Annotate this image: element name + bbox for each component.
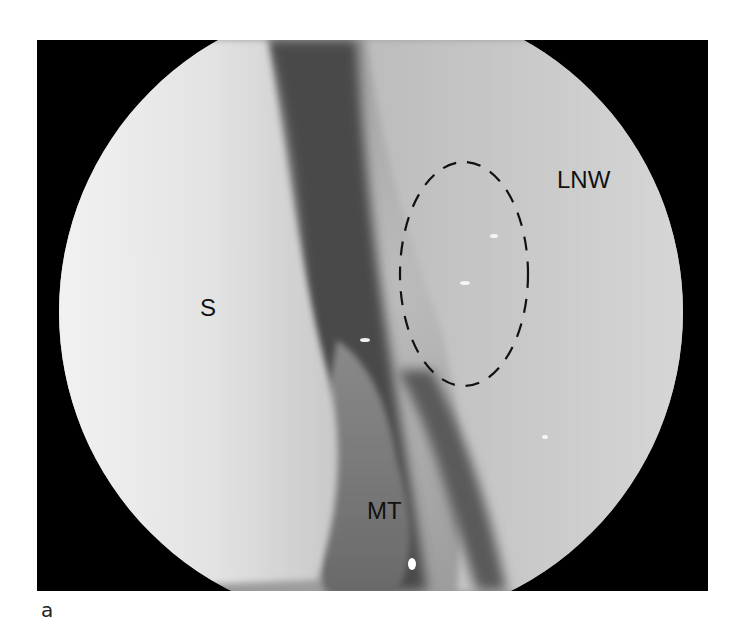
label-lateral-nasal-wall: LNW	[557, 168, 610, 192]
endoscopic-image: S LNW MT	[37, 40, 708, 591]
label-middle-turbinate: MT	[367, 499, 402, 523]
label-septum: S	[200, 296, 216, 320]
panel-label: a	[41, 598, 53, 622]
